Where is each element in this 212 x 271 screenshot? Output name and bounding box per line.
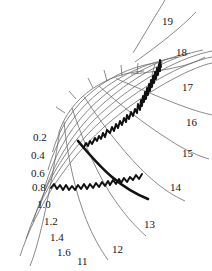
radial-axis-labels: 0.2 0.4 0.6 0.8 1.0 1.2 1.4 1.6 — [31, 131, 71, 258]
grid-spoke-19 — [133, 0, 165, 53]
radial-label-7: 1.6 — [57, 246, 71, 258]
angular-label-12: 12 — [112, 243, 123, 255]
radial-label-0: 0.2 — [33, 131, 47, 143]
angular-label-18: 18 — [176, 46, 188, 58]
trace-smooth-sweep — [78, 141, 148, 199]
grid-arc-0.2 — [59, 71, 145, 134]
tick-mark-b — [104, 70, 107, 81]
angular-label-13: 13 — [144, 218, 156, 230]
polar-plot-figure: 0.2 0.4 0.6 0.8 1.0 1.2 1.4 1.6 11 12 13… — [0, 0, 212, 271]
tick-mark-g — [56, 107, 65, 113]
radial-label-4: 1.0 — [37, 198, 51, 210]
angular-label-11: 11 — [77, 255, 88, 267]
angular-label-16: 16 — [186, 116, 198, 128]
radial-label-2: 0.6 — [31, 167, 45, 179]
tick-mark-f — [69, 91, 76, 99]
radial-label-6: 1.4 — [50, 231, 64, 243]
angular-label-17: 17 — [182, 81, 194, 93]
angular-label-19: 19 — [162, 15, 174, 27]
angular-label-15: 15 — [182, 147, 194, 159]
radial-label-1: 0.4 — [31, 149, 45, 161]
radial-label-5: 1.2 — [44, 215, 58, 227]
polar-chart-canvas: 0.2 0.4 0.6 0.8 1.0 1.2 1.4 1.6 11 12 13… — [0, 0, 212, 271]
angular-label-14: 14 — [170, 181, 182, 193]
tick-mark-c — [121, 65, 122, 76]
tick-mark-a — [88, 78, 93, 88]
radial-label-3: 0.8 — [32, 181, 46, 193]
angular-axis-labels: 11 12 13 14 15 16 17 18 19 — [77, 15, 198, 267]
grid-spoke-13 — [72, 108, 146, 236]
